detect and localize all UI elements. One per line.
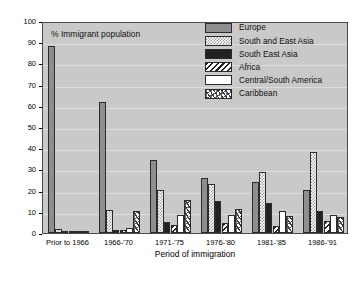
legend-item[interactable]: Europe xyxy=(205,21,345,34)
legend-label: Central/South America xyxy=(239,76,322,84)
bar[interactable] xyxy=(106,210,113,233)
legend-swatch-icon xyxy=(205,23,232,33)
y-tick-label: 50 xyxy=(28,124,36,132)
x-tick-label: 1981-'85 xyxy=(257,238,286,247)
bar[interactable] xyxy=(69,231,76,233)
bar[interactable] xyxy=(310,152,317,233)
bar[interactable] xyxy=(99,102,106,233)
y-tick-label: 40 xyxy=(28,145,36,153)
x-tick-label: 1986-'91 xyxy=(308,238,337,247)
legend-label: Europe xyxy=(239,23,266,31)
x-axis-title: Period of immigration xyxy=(42,249,348,259)
bar-group xyxy=(43,23,94,233)
y-tick-label: 0 xyxy=(32,230,36,238)
bar[interactable] xyxy=(252,182,259,233)
x-tick-label: 1966-'70 xyxy=(104,238,133,247)
bar[interactable] xyxy=(113,230,120,233)
x-tick-label: Prior to 1966 xyxy=(46,238,89,247)
bar[interactable] xyxy=(259,172,266,233)
y-tick-label: 30 xyxy=(28,167,36,175)
bar[interactable] xyxy=(164,222,171,233)
x-tick-label: 1971-'75 xyxy=(155,238,184,247)
legend-swatch-icon xyxy=(205,75,232,85)
bar[interactable] xyxy=(133,211,140,233)
y-tick-label: 80 xyxy=(28,61,36,69)
bar-group xyxy=(94,23,145,233)
x-tick-label: 1976-'80 xyxy=(206,238,235,247)
y-tick-label: 10 xyxy=(28,209,36,217)
legend-swatch-icon xyxy=(205,62,232,72)
y-tick-label: 60 xyxy=(28,103,36,111)
bar-group xyxy=(145,23,196,233)
bar[interactable] xyxy=(266,203,273,233)
legend-label: South East Asia xyxy=(239,50,298,58)
bar[interactable] xyxy=(222,223,229,233)
bar[interactable] xyxy=(177,215,184,233)
legend-label: South and East Asia xyxy=(239,37,314,45)
y-tick-label: 100 xyxy=(23,18,36,26)
chart-legend: EuropeSouth and East AsiaSouth East Asia… xyxy=(205,21,345,100)
legend-item[interactable]: South and East Asia xyxy=(205,34,345,47)
bar[interactable] xyxy=(235,209,242,233)
y-tick-label: 20 xyxy=(28,188,36,196)
y-tick-label: 70 xyxy=(28,82,36,90)
bar[interactable] xyxy=(208,184,215,233)
bar[interactable] xyxy=(150,160,157,233)
y-tick-label: 90 xyxy=(28,39,36,47)
legend-item[interactable]: Central/South America xyxy=(205,74,345,87)
bar[interactable] xyxy=(330,215,337,233)
legend-item[interactable]: South East Asia xyxy=(205,47,345,60)
bar[interactable] xyxy=(317,211,324,233)
bar[interactable] xyxy=(324,221,331,233)
bar[interactable] xyxy=(228,215,235,233)
legend-swatch-icon xyxy=(205,89,232,99)
bar[interactable] xyxy=(171,225,178,233)
bar[interactable] xyxy=(215,201,222,233)
bar[interactable] xyxy=(75,231,82,233)
legend-label: Caribbean xyxy=(239,89,277,97)
bar[interactable] xyxy=(82,231,89,233)
bar[interactable] xyxy=(201,178,208,233)
legend-swatch-icon xyxy=(205,36,232,46)
legend-item[interactable]: Africa xyxy=(205,61,345,74)
y-axis: 0102030405060708090100 xyxy=(0,22,42,234)
legend-label: Africa xyxy=(239,63,260,71)
bar[interactable] xyxy=(48,46,55,233)
bar[interactable] xyxy=(337,217,344,233)
bar[interactable] xyxy=(62,231,69,233)
immigration-bar-chart: 0102030405060708090100 % Immigrant popul… xyxy=(0,0,360,281)
bar[interactable] xyxy=(157,190,164,233)
bar[interactable] xyxy=(184,200,191,233)
bar[interactable] xyxy=(120,230,127,233)
bar[interactable] xyxy=(303,190,310,233)
bar[interactable] xyxy=(273,226,280,233)
bar[interactable] xyxy=(55,229,62,233)
legend-item[interactable]: Caribbean xyxy=(205,87,345,100)
bar[interactable] xyxy=(126,228,133,233)
bar[interactable] xyxy=(279,211,286,233)
legend-swatch-icon xyxy=(205,49,232,59)
bar[interactable] xyxy=(286,216,293,233)
